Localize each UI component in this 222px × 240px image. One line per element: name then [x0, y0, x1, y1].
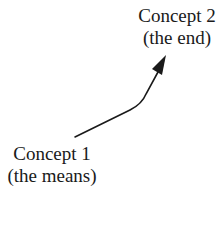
arrow-line	[75, 72, 158, 137]
arrowhead-icon	[152, 55, 166, 75]
node-concept-1-title: Concept 1	[4, 143, 100, 165]
node-concept-1: Concept 1 (the means)	[4, 143, 100, 187]
node-concept-1-subtitle: (the means)	[4, 165, 100, 187]
